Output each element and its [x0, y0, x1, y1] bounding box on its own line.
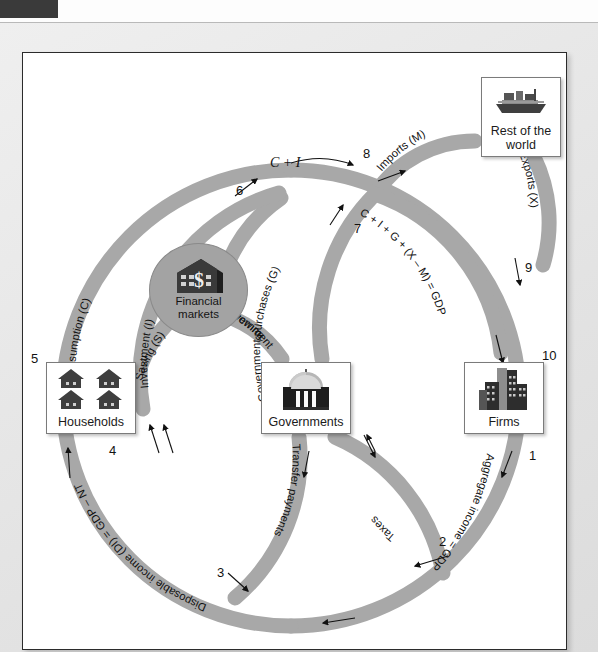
flow-number-6: 6: [236, 183, 243, 198]
cargo-ship-icon: [482, 78, 560, 124]
entity-households[interactable]: Households: [46, 362, 136, 434]
entity-firms[interactable]: Firms: [464, 362, 544, 434]
flow-label-taxes: Taxes: [367, 514, 397, 544]
flow-number-4: 4: [109, 443, 116, 458]
flow-number-5: 5: [31, 351, 38, 366]
entity-governments[interactable]: Governments: [261, 362, 351, 434]
figure-panel: Consumption (C) Saving (S) Investment (I…: [22, 52, 567, 650]
page-background: Consumption (C) Saving (S) Investment (I…: [0, 23, 598, 652]
bank-dollar-icon: $: [173, 259, 225, 295]
flow-number-2: 2: [439, 534, 446, 549]
entity-label-firms: Firms: [488, 415, 519, 433]
flow-number-3: 3: [217, 565, 224, 580]
browser-tab[interactable]: [0, 0, 58, 18]
entity-label-governments: Governments: [268, 415, 343, 433]
entity-label-financial-markets: Financial markets: [175, 295, 221, 322]
entity-financial-markets[interactable]: $ Financial markets: [149, 243, 248, 337]
entity-label-rest-of-the-world: Rest of the world: [491, 124, 551, 156]
flow-number-8: 8: [363, 146, 370, 161]
svg-text:$: $: [194, 269, 204, 291]
flow-number-7: 7: [354, 221, 361, 236]
capitol-building-icon: [262, 363, 350, 415]
browser-top-bar: [0, 0, 598, 23]
flow-label-transfer-payments: Transfer payments: [272, 444, 303, 539]
entity-label-households: Households: [58, 415, 124, 433]
flow-number-10: 10: [542, 348, 556, 363]
entity-rest-of-the-world[interactable]: Rest of the world: [481, 77, 561, 157]
flow-number-9: 9: [525, 260, 532, 275]
flow-label-disposable-income: Disposable income (DI) = GDP – NT: [71, 481, 207, 614]
flow-number-1: 1: [529, 448, 536, 463]
houses-icon: [47, 363, 135, 415]
office-buildings-icon: [465, 363, 543, 415]
flow-label-c-plus-i: C + I: [270, 155, 300, 171]
